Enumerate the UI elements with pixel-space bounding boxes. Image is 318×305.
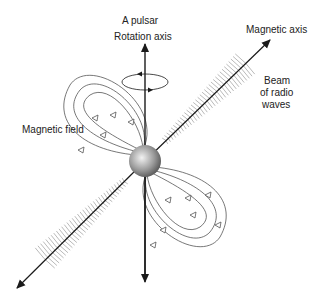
beam-label-line1: Beam [264,75,290,87]
magnetic-axis-label: Magnetic axis [246,24,307,36]
rotation-arrow-icon [148,88,153,93]
rotation-axis-label: Rotation axis [114,31,172,43]
beam-hatch-mark [75,216,88,230]
field-loop [143,167,226,247]
field-direction-arrow-icon [215,222,221,228]
pulsar-diagram [0,0,318,305]
beam-hatch-mark [72,218,86,232]
beam-hatch-mark [70,220,84,234]
field-direction-arrow-icon [128,119,134,125]
neutron-star [129,145,161,177]
field-direction-arrow-icon [92,115,98,121]
field-loop [74,84,145,152]
beam-label-line3: waves [262,99,290,111]
field-direction-arrow-icon [100,132,106,138]
beam-label-line2: of radio [260,87,293,99]
field-loop [64,75,147,155]
pulsar-title: A pulsar [122,15,158,27]
field-loop [84,92,143,150]
magnetic-field-label: Magnetic field [22,124,84,136]
rotation-arrow-icon [137,72,142,77]
beam-hatch-mark [38,246,57,266]
field-direction-arrow-icon [205,192,211,198]
field-loop [147,172,206,230]
field-direction-arrow-icon [190,212,196,218]
beam-hatch-mark [35,248,54,268]
beam-hatch-mark [67,223,81,238]
field-direction-arrow-icon [110,112,116,118]
field-direction-arrow-icon [78,147,84,153]
beam-hatch-mark [77,214,90,227]
field-direction-arrow-icon [165,197,171,203]
field-direction-arrow-icon [150,242,156,248]
magnetic-axis-line [145,40,270,161]
magnetic-axis-lower-line [17,161,145,288]
field-loop [146,170,217,238]
field-direction-arrow-icon [185,195,191,201]
